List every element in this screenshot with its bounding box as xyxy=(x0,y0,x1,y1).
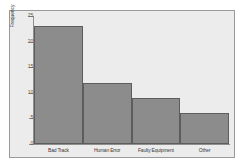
y-axis-title: Frequency xyxy=(9,0,15,48)
x-axis-category-label: Human Error xyxy=(83,147,132,153)
x-axis-category-label: Faulty Equipment xyxy=(132,147,181,153)
x-axis-category-label: Bad Track xyxy=(34,147,83,153)
bar-series xyxy=(34,16,229,144)
y-axis-tick-label: 0 xyxy=(7,141,33,146)
x-axis-category-labels: Bad TrackHuman ErrorFaulty EquipmentOthe… xyxy=(34,147,229,157)
bar xyxy=(132,98,181,144)
x-axis-category-label: Other xyxy=(180,147,229,153)
x-axis-line xyxy=(33,144,230,145)
bar xyxy=(34,26,83,144)
y-axis-tick-label: 10 xyxy=(7,90,33,95)
y-axis-tick-label: 5 xyxy=(7,115,33,120)
bar xyxy=(83,83,132,144)
y-axis-tick-label: 15 xyxy=(7,64,33,69)
bar xyxy=(180,113,229,144)
chart-figure: 0510152025 Frequency Bad TrackHuman Erro… xyxy=(0,0,244,168)
